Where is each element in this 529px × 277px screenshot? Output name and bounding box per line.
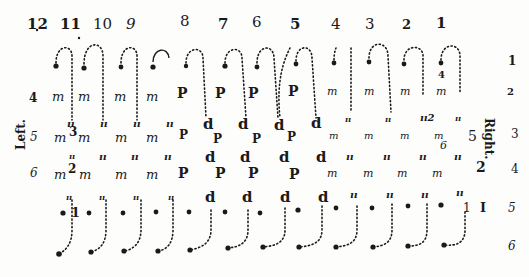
column-number-4: 4 xyxy=(331,17,341,32)
right-row-number-5: 5 xyxy=(508,202,516,214)
cell-row5b-col12: ıı xyxy=(69,152,75,160)
cell-row4b-col3: ıı xyxy=(385,115,391,123)
column-number-9: 9 xyxy=(126,17,136,32)
cell-row4b-col1: ıı xyxy=(455,114,461,122)
cell-row6-col6: P xyxy=(248,166,259,180)
cell-row5b-col1: ıı xyxy=(454,152,462,162)
cell-row5-col7: P xyxy=(213,133,222,145)
marker-right-6: 6 xyxy=(440,140,447,151)
cell-row5-col2: m xyxy=(400,131,409,141)
cell-row6-col11: m xyxy=(79,168,91,181)
cell-row4-col5: P xyxy=(288,84,299,98)
cell-row6-col12: m xyxy=(54,168,66,181)
cell-row5-col11: m xyxy=(78,131,90,144)
cell-row4b-col4: ıı xyxy=(345,115,351,123)
cell-row5b-col4: ıı xyxy=(346,152,354,162)
cell-row5-col5: P xyxy=(287,131,296,143)
right-row-number-6: 6 xyxy=(508,240,516,252)
column-number-3: 3 xyxy=(365,17,375,32)
side-label-right: Right. xyxy=(482,118,496,159)
cell-row6-col1: m xyxy=(432,168,442,179)
column-number-1: 1 xyxy=(436,16,446,31)
cell-row4-col9: m xyxy=(146,90,158,103)
cell-row6b-col5: d xyxy=(318,190,329,205)
right-row-number-3: 3 xyxy=(511,128,519,140)
right-row-number-2: 2 xyxy=(507,87,514,97)
cell-row5b-col2: ıı xyxy=(419,152,427,162)
cell-row5-col3: m xyxy=(364,131,373,141)
cell-row4b-col7: d xyxy=(238,117,249,132)
cell-row5b-col7: d xyxy=(240,150,251,165)
marker-col1-upper: 4 xyxy=(438,70,445,80)
cell-row5b-col11: ıı xyxy=(99,152,107,162)
cell-row5b-col5: d xyxy=(316,150,327,165)
column-number-7: 7 xyxy=(218,17,228,32)
cell-row4-col1: m xyxy=(436,86,446,97)
column-number-10: 10 xyxy=(93,17,112,32)
cell-row5-col10: m xyxy=(115,131,127,144)
marker-bottom-left: 1 xyxy=(71,206,80,219)
cell-row4b-col9: ıı xyxy=(166,119,174,129)
cell-row4-col6: P xyxy=(248,86,259,100)
column-number-12: 12 xyxy=(27,17,48,32)
cell-row4-col8: P xyxy=(177,86,188,100)
column-number-2: 2 xyxy=(402,18,411,31)
cell-row6b-col4: ıı xyxy=(350,190,358,200)
marker-row6-left: 2 xyxy=(68,163,76,175)
cell-row4-col4: m xyxy=(327,86,337,97)
cell-row6-col3: m xyxy=(363,168,373,179)
cell-row6b-col3: ıı xyxy=(386,190,394,200)
cell-row4b-col11: ıı xyxy=(100,119,108,129)
cell-row6-col10: m xyxy=(115,168,127,181)
cell-row6b-col1: ıı xyxy=(456,188,464,198)
marker-right-2: 2 xyxy=(476,160,486,174)
cell-row6b-col2: ıı xyxy=(421,190,429,200)
cell-row4-col3: m xyxy=(364,86,374,97)
cell-row5-col9: m xyxy=(146,131,158,144)
cell-row5-col8: P xyxy=(179,129,188,141)
cell-row6b-col6: d xyxy=(280,190,291,205)
right-row-number-1: 1 xyxy=(508,55,516,67)
cell-row4b-col2: ıı2 xyxy=(420,113,435,123)
cell-row6-col7: P xyxy=(215,166,226,180)
column-number-5: 5 xyxy=(290,17,300,32)
cell-row6b-col11: ıı xyxy=(99,193,105,201)
cell-row6-col8: P xyxy=(178,166,189,180)
cell-row6-col9: m xyxy=(146,168,158,181)
marker-right-1: 1 xyxy=(463,202,471,214)
marker-row5-left: 3 xyxy=(69,126,77,138)
cell-row6b-col12: ıı xyxy=(66,193,72,201)
cell-row5b-col10: ıı xyxy=(131,152,139,162)
right-row-number-4: 4 xyxy=(511,163,519,175)
cell-row4-col7: P xyxy=(215,86,226,100)
cell-row5b-col9: ıı xyxy=(164,152,172,162)
cell-row5b-col8: d xyxy=(205,150,216,165)
cell-row6-col4: m xyxy=(327,168,337,179)
left-row-number-4: 4 xyxy=(29,92,37,104)
cell-row5-col6: P xyxy=(252,133,261,145)
column-number-6: 6 xyxy=(252,15,262,30)
cell-row4-col2: m xyxy=(400,86,410,97)
cell-row6b-col8: d xyxy=(205,190,216,205)
cell-row6b-col10: ıı xyxy=(133,193,139,201)
cell-row4b-col10: ıı xyxy=(133,119,141,129)
left-row-number-5: 5 xyxy=(30,131,38,143)
cell-row6-col5: P xyxy=(289,167,300,181)
cell-row5b-col6: d xyxy=(279,150,290,165)
cell-row5-col12: m xyxy=(54,131,66,144)
cell-row4-col10: m xyxy=(114,90,126,103)
cell-row5b-col3: ıı xyxy=(383,152,391,162)
cell-row4b-col5: d xyxy=(311,116,322,131)
cell-row6b-col7: d xyxy=(242,190,253,205)
cell-row6b-col9: ıı xyxy=(168,193,174,201)
cell-row5-col4: m xyxy=(329,131,338,141)
marker-right-5: 5 xyxy=(468,129,477,143)
cell-row4b-col8: d xyxy=(203,117,214,132)
notation-diagram: 12 11 10 9 8 7 6 5 4 3 2 1 1 2 3 4 5 6 4… xyxy=(0,0,529,277)
left-row-number-6: 6 xyxy=(30,167,38,179)
cell-row4-col11: m xyxy=(78,90,90,103)
cell-row4b-col6: d xyxy=(274,118,285,133)
side-label-left: Left. xyxy=(14,119,28,150)
column-number-11: 11 xyxy=(60,17,81,32)
cell-row4-col12: m xyxy=(52,90,64,103)
